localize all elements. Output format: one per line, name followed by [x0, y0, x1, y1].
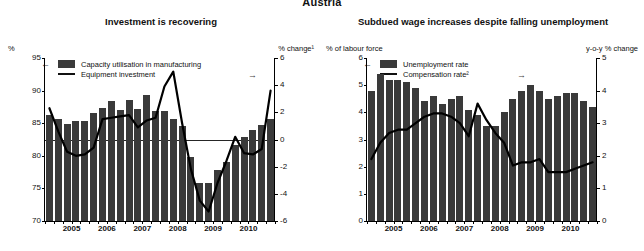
- y2-axis-tick-label: 4: [280, 81, 284, 89]
- x-axis-tick-mark: [517, 221, 518, 224]
- plot-area-unemployment: 0123456012345200520062007200820092010: [366, 58, 597, 222]
- x-axis-year-label: 2009: [204, 224, 222, 233]
- x-axis-tick-mark: [45, 221, 46, 224]
- x-axis-year-label: 2008: [169, 224, 187, 233]
- chart-panel-investment: Investment is recovering % % change¹ Cap…: [0, 0, 322, 251]
- y2-axis-tick-label: 4: [602, 87, 606, 95]
- left-axis-unit-investment: %: [8, 44, 15, 53]
- x-axis-year-label: 2008: [491, 224, 509, 233]
- x-axis-tick-mark: [89, 221, 90, 224]
- y2-axis-tick-mark: [597, 123, 600, 124]
- right-axis-unit-unemployment: y-o-y % change: [586, 44, 638, 53]
- x-axis-tick-mark: [231, 221, 232, 224]
- x-axis-year-label: 2010: [240, 224, 258, 233]
- line-series-unemployment: [367, 58, 597, 221]
- x-axis-tick-mark: [367, 221, 368, 224]
- y2-axis-tick-label: 2: [280, 108, 284, 116]
- x-axis-tick-mark: [411, 221, 412, 224]
- chart-panel-unemployment: Subdued wage increases despite falling u…: [322, 0, 644, 251]
- x-axis-year-label: 2007: [455, 224, 473, 233]
- y2-axis-tick-label: -6: [280, 217, 287, 225]
- x-axis-tick-mark: [125, 221, 126, 224]
- x-axis-tick-mark: [588, 221, 589, 224]
- x-axis-year-label: 2005: [385, 224, 403, 233]
- x-axis-tick-mark: [376, 221, 377, 224]
- x-axis-year-label: 2005: [63, 224, 81, 233]
- y2-axis-tick-mark: [275, 194, 278, 195]
- x-axis-year-label: 2006: [98, 224, 116, 233]
- y2-axis-tick-mark: [275, 58, 278, 59]
- x-axis-tick-mark: [447, 221, 448, 224]
- right-axis-unit-investment: % change¹: [278, 44, 314, 53]
- chart-title-unemployment: Subdued wage increases despite falling u…: [322, 16, 644, 27]
- line-path: [49, 72, 270, 212]
- y2-axis-tick-label: -4: [280, 190, 287, 198]
- x-axis-tick-mark: [160, 221, 161, 224]
- y-axis-tick-label: 95: [32, 54, 41, 62]
- x-axis-tick-mark: [195, 221, 196, 224]
- y-axis-tick-label: 90: [32, 87, 41, 95]
- y2-axis-tick-mark: [597, 58, 600, 59]
- x-axis-year-label: 2009: [526, 224, 544, 233]
- y-axis-tick-label: 2: [359, 163, 363, 171]
- y-axis-tick-label: 6: [359, 54, 363, 62]
- x-axis-tick-mark: [597, 221, 598, 224]
- y-axis-tick-label: 75: [32, 184, 41, 192]
- y2-axis-tick-mark: [275, 112, 278, 113]
- x-axis-tick-mark: [54, 221, 55, 224]
- x-axis-tick-mark: [482, 221, 483, 224]
- x-axis-tick-mark: [266, 221, 267, 224]
- line-path: [371, 104, 592, 172]
- x-axis-year-label: 2006: [420, 224, 438, 233]
- line-series-investment: [45, 58, 275, 221]
- y-axis-tick-label: 5: [359, 81, 363, 89]
- y2-axis-tick-mark: [597, 156, 600, 157]
- y2-axis-tick-mark: [275, 85, 278, 86]
- x-axis-tick-mark: [553, 221, 554, 224]
- y2-axis-tick-mark: [275, 167, 278, 168]
- y-axis-tick-label: 1: [359, 190, 363, 198]
- x-axis-year-label: 2010: [562, 224, 580, 233]
- y2-axis-tick-label: 1: [602, 184, 606, 192]
- y2-axis-tick-label: 2: [602, 152, 606, 160]
- y-axis-tick-label: 3: [359, 136, 363, 144]
- y2-axis-tick-label: 3: [602, 119, 606, 127]
- y-axis-tick-label: 85: [32, 119, 41, 127]
- x-axis-year-label: 2007: [133, 224, 151, 233]
- left-axis-unit-unemployment: % of labour force: [326, 44, 383, 53]
- y2-axis-tick-mark: [597, 91, 600, 92]
- y2-axis-tick-label: 0: [280, 136, 284, 144]
- y2-axis-tick-label: 6: [280, 54, 284, 62]
- y-axis-tick-label: 0: [359, 217, 363, 225]
- y-axis-tick-label: 70: [32, 217, 41, 225]
- y2-axis-tick-mark: [597, 188, 600, 189]
- y-axis-tick-label: 4: [359, 108, 363, 116]
- chart-title-investment: Investment is recovering: [0, 16, 322, 27]
- y-axis-tick-label: 80: [32, 152, 41, 160]
- y2-axis-tick-label: -2: [280, 163, 287, 171]
- y2-axis-tick-mark: [275, 140, 278, 141]
- y2-axis-tick-label: 5: [602, 54, 606, 62]
- x-axis-tick-mark: [275, 221, 276, 224]
- plot-area-investment: 707580859095-6-4-20246200520062007200820…: [44, 58, 275, 222]
- y2-axis-tick-label: 0: [602, 217, 606, 225]
